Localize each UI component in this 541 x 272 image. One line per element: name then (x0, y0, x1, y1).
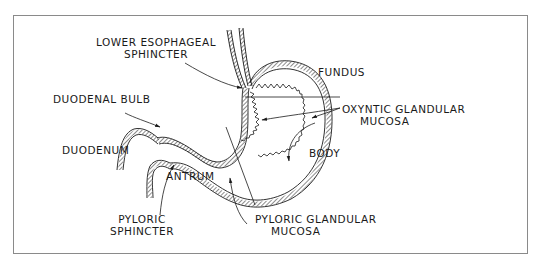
label-duodenum: DUODENUM (62, 144, 129, 156)
label-line: MUCOSA (255, 225, 376, 237)
duodenal-bulb-arrow (125, 113, 160, 127)
label-fundus: FUNDUS (318, 66, 365, 78)
label-pyloric-sphincter: PYLORIC SPHINCTER (110, 213, 174, 237)
label-body: BODY (309, 147, 340, 159)
label-line: OXYNTIC GLANDULAR (342, 103, 465, 115)
label-oxyntic-glandular-mucosa: OXYNTIC GLANDULAR MUCOSA (342, 103, 465, 127)
stomach-outer-wall (170, 61, 332, 207)
label-lower-esophageal-sphincter: LOWER ESOPHAGEAL SPHINCTER (96, 36, 216, 60)
label-line: PYLORIC (110, 213, 174, 225)
esophagus (227, 28, 252, 88)
label-line: SPHINCTER (110, 225, 174, 237)
label-duodenal-bulb: DUODENAL BULB (53, 93, 150, 105)
label-line: SPHINCTER (96, 48, 216, 60)
label-line: LOWER ESOPHAGEAL (96, 36, 216, 48)
oxyntic-mucosa-arrow-2 (312, 108, 340, 118)
label-line: MUCOSA (342, 115, 465, 127)
label-antrum: ANTRUM (166, 170, 215, 182)
lesser-curvature (157, 88, 259, 168)
label-line: PYLORIC GLANDULAR (255, 213, 376, 225)
lower-esophageal-sphincter-arrow (185, 63, 242, 88)
label-pyloric-glandular-mucosa: PYLORIC GLANDULAR MUCOSA (255, 213, 376, 237)
